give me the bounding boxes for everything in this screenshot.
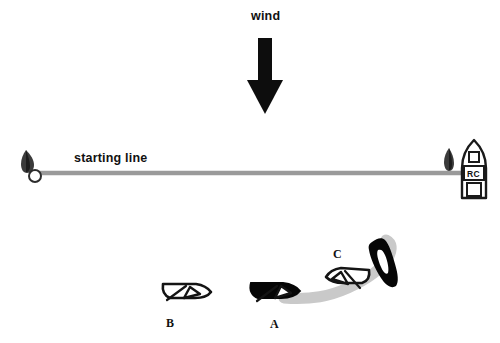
boat-label-c: C	[333, 247, 342, 262]
boat-label-a: A	[270, 317, 279, 332]
sailing-diagram-canvas: wind starting line RC B A C	[0, 0, 500, 343]
starting-line-label: starting line	[74, 151, 147, 165]
pin-buoy-icon	[21, 150, 41, 182]
boat-label-b: B	[166, 316, 174, 331]
race-committee-boat-label: RC	[467, 169, 480, 179]
boat-b-icon	[163, 284, 211, 300]
wind-label: wind	[251, 9, 280, 23]
wind-arrow-icon	[247, 38, 283, 114]
